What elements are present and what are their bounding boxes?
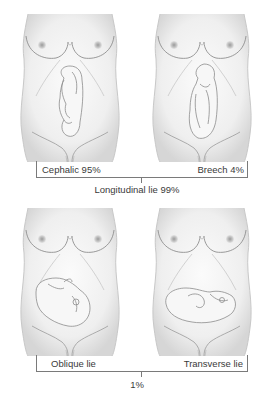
bracket-tick-center-2 <box>141 371 142 377</box>
label-longitudinal-lie: Longitudinal lie 99% <box>0 184 274 195</box>
fetus-transverse-icon <box>166 288 236 323</box>
bracket-tick-left-2 <box>36 355 37 372</box>
label-other-lie-percent: 1% <box>0 379 274 390</box>
bracket-tick-right-2 <box>247 355 248 372</box>
figure-transverse <box>152 208 252 358</box>
bracket-tick-right <box>247 161 248 178</box>
figure-breech <box>152 14 252 164</box>
bracket-line-2 <box>36 371 248 372</box>
label-cephalic: Cephalic 95% <box>42 164 101 175</box>
figure-oblique <box>20 208 120 358</box>
bracket-tick-left <box>36 161 37 178</box>
label-transverse-lie: Transverse lie <box>184 358 243 369</box>
label-breech: Breech 4% <box>198 164 244 175</box>
fetus-cephalic-icon <box>59 66 83 136</box>
label-oblique-lie: Oblique lie <box>51 358 96 369</box>
bracket-tick-center <box>141 177 142 183</box>
figure-cephalic <box>20 14 120 164</box>
bracket-line <box>36 177 248 178</box>
